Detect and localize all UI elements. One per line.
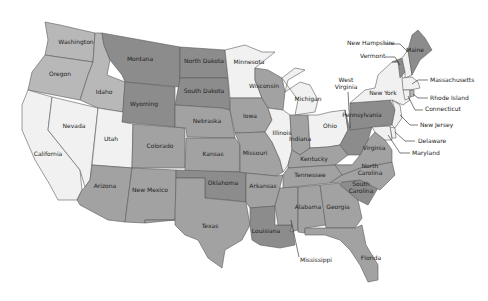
- state-massachusetts[interactable]: [402, 77, 420, 90]
- state-pennsylvania[interactable]: [350, 100, 395, 130]
- leader-line-new-jersey: [400, 115, 418, 125]
- state-michigan[interactable]: [282, 68, 318, 115]
- label-west-virginia-line1: West: [339, 76, 354, 83]
- state-mississippi[interactable]: [275, 187, 298, 232]
- state-colorado[interactable]: [132, 124, 185, 168]
- leader-line-rhode-island: [413, 94, 428, 98]
- map-canvas: WashingtonOregonCaliforniaNevadaIdahoMon…: [0, 0, 488, 301]
- label-connecticut: Connecticut: [425, 105, 462, 112]
- leader-line-new-hampshire: [384, 44, 408, 52]
- label-rhode-island: Rhode Island: [430, 94, 469, 101]
- state-maine[interactable]: [408, 30, 432, 75]
- state-rhode-island[interactable]: [410, 90, 414, 97]
- label-new-jersey: New Jersey: [420, 121, 454, 129]
- state-south-dakota[interactable]: [175, 78, 230, 110]
- label-vermont: Vermont: [360, 52, 386, 59]
- label-new-hampshire: New Hampshire: [347, 39, 395, 47]
- leader-line-delaware: [395, 132, 415, 141]
- state-new-mexico[interactable]: [125, 168, 176, 223]
- state-wyoming[interactable]: [122, 82, 175, 127]
- label-mississippi: Mississippi: [300, 256, 332, 264]
- label-maryland: Maryland: [412, 149, 440, 157]
- states-layer: [22, 22, 432, 282]
- state-indiana[interactable]: [290, 115, 310, 155]
- label-west-virginia-line2: Virginia: [335, 83, 358, 91]
- state-north-dakota[interactable]: [180, 47, 228, 78]
- state-florida[interactable]: [305, 225, 378, 282]
- label-massachusetts: Massachusetts: [430, 76, 474, 83]
- us-states-map: WashingtonOregonCaliforniaNevadaIdahoMon…: [0, 0, 488, 301]
- state-kansas[interactable]: [185, 138, 240, 172]
- label-delaware: Delaware: [418, 137, 447, 144]
